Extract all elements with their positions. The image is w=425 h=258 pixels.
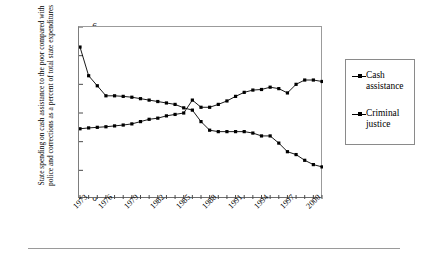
data-point-marker (139, 97, 142, 100)
data-point-marker (156, 117, 159, 120)
data-point-marker (104, 125, 107, 128)
legend-item-cash-assistance[interactable]: Cash assistance (352, 70, 404, 92)
data-point-marker (79, 45, 82, 48)
data-point-marker (191, 109, 194, 112)
data-point-marker (191, 99, 194, 102)
data-point-marker (312, 78, 315, 81)
legend-label-line2: justice (366, 119, 390, 129)
data-point-marker (234, 130, 237, 133)
data-point-marker (182, 111, 185, 114)
data-point-marker (225, 130, 228, 133)
series-canvas (79, 27, 323, 199)
data-point-marker (208, 106, 211, 109)
data-point-marker (87, 74, 90, 77)
data-point-marker (234, 95, 237, 98)
data-point-marker (96, 84, 99, 87)
data-point-marker (79, 127, 82, 130)
y-axis-title: State spending on cash assistance to the… (37, 0, 56, 193)
legend-label-line1: Criminal (366, 108, 399, 118)
data-point-marker (303, 78, 306, 81)
data-point-marker (320, 80, 323, 83)
data-point-marker (173, 113, 176, 116)
data-point-marker (130, 96, 133, 99)
data-point-marker (113, 124, 116, 127)
chart-legend: Cash assistance Criminal justice (345, 59, 415, 145)
footer-rule (28, 248, 400, 249)
data-point-marker (294, 83, 297, 86)
data-point-marker (294, 153, 297, 156)
data-point-marker (208, 129, 211, 132)
data-point-marker (104, 94, 107, 97)
legend-label-line2: assistance (366, 81, 404, 91)
data-point-marker (260, 88, 263, 91)
data-point-marker (251, 88, 254, 91)
data-point-marker (277, 142, 280, 145)
data-point-marker (122, 95, 125, 98)
data-point-marker (286, 150, 289, 153)
legend-marker-icon (352, 71, 366, 81)
data-point-marker (269, 134, 272, 137)
data-point-marker (217, 130, 220, 133)
data-point-marker (122, 123, 125, 126)
data-point-marker (113, 94, 116, 97)
legend-item-criminal-justice[interactable]: Criminal justice (352, 108, 399, 130)
legend-label-cash-assistance: Cash assistance (366, 70, 404, 92)
data-point-marker (139, 120, 142, 123)
data-point-marker (320, 165, 323, 168)
chart-figure: State spending on cash assistance to the… (0, 0, 425, 258)
legend-label-criminal-justice: Criminal justice (366, 108, 399, 130)
data-point-marker (225, 99, 228, 102)
data-point-marker (243, 91, 246, 94)
data-point-marker (182, 106, 185, 109)
data-point-marker (217, 103, 220, 106)
data-point-marker (165, 114, 168, 117)
data-point-marker (286, 91, 289, 94)
plot-area (78, 26, 322, 198)
data-point-marker (156, 100, 159, 103)
data-point-marker (96, 126, 99, 129)
data-point-marker (148, 99, 151, 102)
data-point-marker (260, 134, 263, 137)
data-point-marker (269, 86, 272, 89)
data-point-marker (148, 118, 151, 121)
data-point-marker (277, 87, 280, 90)
legend-label-line1: Cash (366, 70, 385, 80)
legend-marker-icon (352, 109, 366, 119)
data-point-marker (303, 159, 306, 162)
data-point-marker (199, 106, 202, 109)
data-point-marker (130, 122, 133, 125)
data-point-marker (165, 101, 168, 104)
data-point-marker (173, 103, 176, 106)
data-point-marker (243, 130, 246, 133)
data-point-marker (87, 126, 90, 129)
data-point-marker (251, 131, 254, 134)
data-point-marker (312, 163, 315, 166)
data-point-marker (199, 120, 202, 123)
